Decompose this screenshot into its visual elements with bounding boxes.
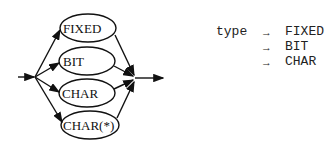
production-arrow-1: → [263, 25, 270, 41]
grammar-lhs: type [216, 24, 247, 40]
merge-arrow-char [114, 80, 133, 89]
merge-arrow-char-star [117, 82, 134, 118]
production-arrow-2: → [263, 40, 270, 56]
merge-arrow-fixed [115, 35, 134, 75]
node-label-char: CHAR [62, 86, 98, 101]
production-char: CHAR [285, 54, 316, 70]
production-bit: BIT [285, 39, 308, 55]
production-fixed: FIXED [285, 24, 324, 40]
node-label-char-star: CHAR(*) [63, 118, 114, 133]
branch-arrow-char-star [35, 77, 62, 122]
production-arrow-3: → [263, 55, 270, 71]
node-label-fixed: FIXED [63, 21, 101, 36]
branch-arrow-char [35, 77, 59, 92]
node-label-bit: BIT [63, 54, 84, 69]
syntax-diagram: FIXED BIT CHAR CHAR(*) [0, 0, 335, 148]
